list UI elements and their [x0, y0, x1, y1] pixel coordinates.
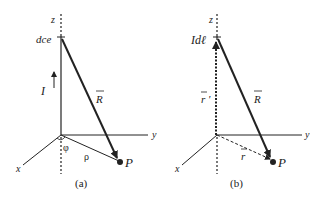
z-axis-label: z [50, 14, 55, 25]
caption-a: (a) [75, 177, 88, 190]
caption-b: (b) [230, 177, 243, 190]
r-vector-label: r [241, 150, 246, 162]
x-axis [182, 135, 217, 165]
figure-b: z y x Idℓ r ' R r P (b) [174, 14, 310, 190]
r-prime-label: r ' [201, 93, 211, 105]
R-vector-label: R [253, 93, 261, 105]
z-axis-label: z [208, 14, 213, 25]
point-P-dot [117, 159, 123, 165]
point-P-label: P [277, 155, 286, 170]
point-P-label: P [124, 155, 133, 170]
rho-line [61, 135, 119, 161]
x-axis [23, 135, 61, 165]
figure-a: z y x dce I R φ ρ P (a) [15, 14, 157, 190]
R-vector-arrow [218, 39, 270, 157]
figure-canvas: z y x dce I R φ ρ P (a) z y x Id [0, 0, 325, 204]
point-P-dot [270, 159, 276, 165]
phi-label: φ [63, 142, 69, 153]
x-axis-label: x [174, 163, 180, 174]
y-axis-label: y [151, 129, 157, 140]
x-axis-label: x [15, 163, 21, 174]
rho-label: ρ [84, 151, 89, 162]
y-axis-label: y [304, 129, 310, 140]
element-label: Idℓ [190, 33, 206, 47]
element-label: dce [36, 33, 51, 45]
R-vector-label: R [95, 93, 103, 105]
R-vector-arrow [62, 39, 117, 158]
current-label: I [40, 84, 46, 98]
